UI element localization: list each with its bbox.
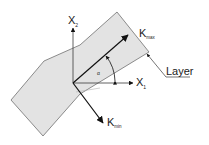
kmax-label: Kmax — [139, 27, 156, 40]
x2-label: X2 — [68, 14, 78, 28]
layer-label: Layer — [166, 65, 194, 77]
layer-orientation-diagram: α X2 X1 Kmax Kmin Layer — [0, 0, 209, 145]
layer-shape — [11, 12, 149, 136]
angle-label: α — [97, 70, 100, 76]
kmin-label: Kmin — [107, 116, 122, 129]
x1-label: X1 — [136, 76, 146, 90]
